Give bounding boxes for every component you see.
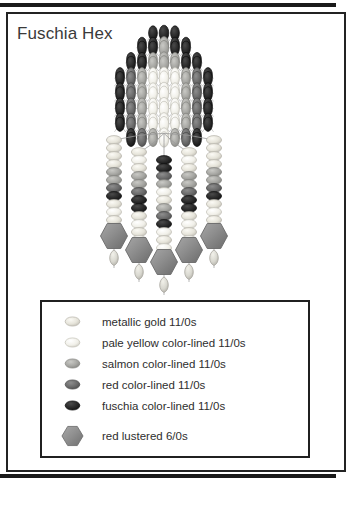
legend-row: fuschia color-lined 11/0s xyxy=(42,395,308,416)
seed-bead-oval-swatch xyxy=(42,316,102,327)
bottom-rule xyxy=(0,474,336,478)
hex-bead-swatch xyxy=(42,425,102,447)
legend-item-label: metallic gold 11/0s xyxy=(102,316,196,328)
seed-bead-oval-swatch xyxy=(42,379,102,390)
legend-item-label: red lustered 6/0s xyxy=(102,430,188,442)
seed-bead-oval-swatch xyxy=(42,400,102,411)
legend-row: red lustered 6/0s xyxy=(42,425,308,446)
legend-row: metallic gold 11/0s xyxy=(42,311,308,332)
legend-item-label: fuschia color-lined 11/0s xyxy=(102,400,225,412)
seed-bead-oval-swatch xyxy=(42,337,102,348)
top-rule xyxy=(0,3,336,7)
legend-item-label: salmon color-lined 11/0s xyxy=(102,358,226,370)
seed-bead-oval-swatch xyxy=(42,358,102,369)
legend-item-label: red color-lined 11/0s xyxy=(102,379,205,391)
legend-row: salmon color-lined 11/0s xyxy=(42,353,308,374)
legend-item-label: pale yellow color-lined 11/0s xyxy=(102,337,246,349)
legend-box: metallic gold 11/0spale yellow color-lin… xyxy=(40,300,310,458)
page-title: Fuschia Hex xyxy=(17,24,113,44)
legend-row: red color-lined 11/0s xyxy=(42,374,308,395)
legend-row: pale yellow color-lined 11/0s xyxy=(42,332,308,353)
